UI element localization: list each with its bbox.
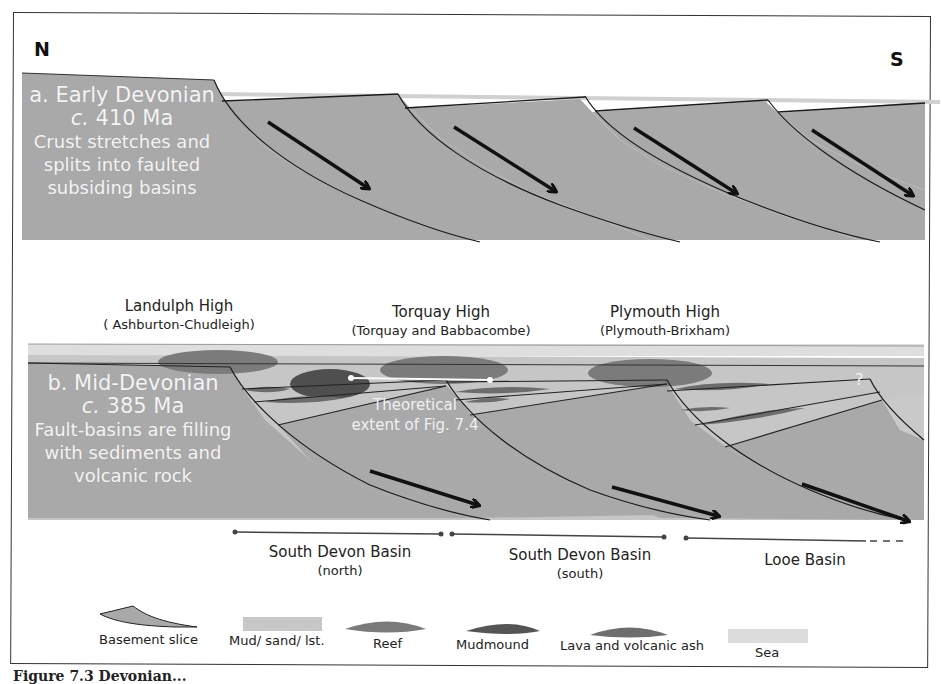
mudmound-swatch: [466, 624, 540, 634]
high-sub: ( Ashburton-Chudleigh): [84, 317, 274, 332]
panel-b-title: b. Mid-Devonian: [26, 372, 240, 395]
high-label-landulph: Landulph High ( Ashburton-Chudleigh): [84, 297, 274, 332]
panel-a-age-prefix: c.: [71, 106, 89, 130]
panel-a-age: 410 Ma: [96, 106, 174, 130]
figure-caption: Figure 7.3 Devonian...: [13, 668, 187, 684]
panel-a-desc-line: subsiding basins: [22, 176, 222, 199]
lava-swatch: [590, 628, 668, 638]
high-sub: (Plymouth-Brixham): [580, 323, 750, 338]
basin-name: South Devon Basin: [250, 543, 430, 561]
high-label-plymouth: Plymouth High (Plymouth-Brixham): [580, 303, 750, 338]
theoretical-extent-label: Theoretical extent of Fig. 7.4: [340, 395, 490, 435]
high-name: Landulph High: [84, 297, 274, 315]
reef-swatch: [345, 622, 426, 633]
legend-label-mudmound: Mudmound: [456, 637, 529, 652]
basement-slice-swatch: [100, 606, 197, 627]
north-label: N: [34, 38, 50, 60]
high-name: Torquay High: [336, 303, 546, 321]
reef-plymouth: [588, 359, 712, 387]
high-sub: (Torquay and Babbacombe): [336, 323, 546, 338]
panel-b-desc-line: with sediments and: [26, 441, 240, 464]
sea-swatch: [728, 629, 808, 643]
panel-b-age-prefix: c.: [82, 394, 100, 418]
sediment-swatch: [243, 617, 322, 631]
panel-b-label: b. Mid-Devonian c. 385 Ma Fault-basins a…: [26, 372, 240, 487]
panel-b-desc-line: Fault-basins are filling: [26, 418, 240, 441]
legend-label-reef: Reef: [373, 636, 402, 651]
legend-label-lava: Lava and volcanic ash: [560, 638, 704, 653]
basin-extent-lines: [233, 530, 906, 542]
legend-label-sea: Sea: [755, 645, 779, 660]
legend-label-basement: Basement slice: [99, 632, 198, 647]
basin-sub: (south): [490, 566, 670, 581]
basin-name: Looe Basin: [735, 551, 875, 569]
panel-a-desc-line: splits into faulted: [22, 153, 222, 176]
basin-label-sdb-north: South Devon Basin (north): [250, 543, 430, 578]
panel-a-desc-line: Crust stretches and: [22, 130, 222, 153]
overlay-line-1: Theoretical: [340, 395, 490, 415]
basin-name: South Devon Basin: [490, 546, 670, 564]
south-label: S: [890, 48, 904, 70]
uncertain-mark: ?: [855, 370, 864, 389]
overlay-line-2: extent of Fig. 7.4: [340, 415, 490, 435]
high-label-torquay: Torquay High (Torquay and Babbacombe): [336, 303, 546, 338]
panel-b-age: 385 Ma: [107, 394, 185, 418]
high-name: Plymouth High: [580, 303, 750, 321]
panel-a-label: a. Early Devonian c. 410 Ma Crust stretc…: [22, 84, 222, 199]
legend-label-sediment: Mud/ sand/ lst.: [229, 633, 325, 648]
basin-label-looe: Looe Basin: [735, 551, 875, 569]
panel-b-desc-line: volcanic rock: [26, 464, 240, 487]
basin-sub: (north): [250, 563, 430, 578]
panel-a-title: a. Early Devonian: [22, 84, 222, 107]
basin-label-sdb-south: South Devon Basin (south): [490, 546, 670, 581]
